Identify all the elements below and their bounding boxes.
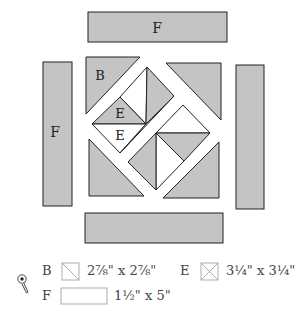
legend-size-f: 1½" x 5" (114, 288, 171, 303)
legend-letter-e: E (180, 263, 190, 278)
legend-letter-b: B (42, 263, 52, 278)
legend-letter-f: F (42, 288, 51, 303)
legend: B 2⅞" x 2⅞" E 3¼" x 3¼" F 1½" x 5" (0, 0, 303, 327)
legend-size-e: 3¼" x 3¼" (226, 263, 295, 278)
legend-size-b: 2⅞" x 2⅞" (87, 263, 156, 278)
